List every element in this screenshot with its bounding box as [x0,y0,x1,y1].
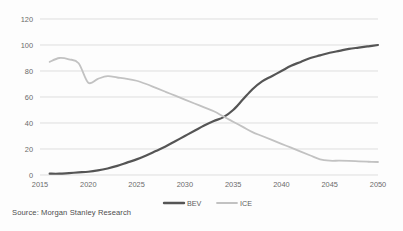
series-line-bev [50,45,378,174]
chart-legend: BEVICE [164,199,252,208]
x-axis-tick-labels: 20152020202520302035204020452050 [32,180,386,189]
y-axis-tick-label: 100 [21,41,33,50]
y-axis-tick-label: 60 [25,93,33,102]
chart-canvas: 020406080100120 201520202025203020352040… [0,0,403,231]
y-axis-tick-label: 80 [25,67,33,76]
x-axis-tick-label: 2025 [128,180,144,189]
x-axis-tick-label: 2030 [177,180,193,189]
y-axis-tick-label: 20 [25,145,33,154]
x-axis-tick-label: 2015 [32,180,48,189]
x-axis-tick-label: 2035 [225,180,241,189]
y-axis-tick-label: 40 [25,119,33,128]
y-axis-tick-labels: 020406080100120 [21,15,33,180]
legend-label-bev[interactable]: BEV [187,199,202,208]
gridlines [40,19,378,175]
data-series-group [50,45,378,174]
x-axis-tick-label: 2045 [321,180,337,189]
legend-label-ice[interactable]: ICE [240,199,252,208]
y-axis-tick-label: 120 [21,15,33,24]
x-axis-tick-label: 2050 [370,180,386,189]
x-axis-tick-label: 2040 [273,180,289,189]
series-line-ice [50,58,378,162]
line-chart-svg: 020406080100120 201520202025203020352040… [0,0,403,231]
x-axis-tick-label: 2020 [80,180,96,189]
y-axis-tick-label: 0 [29,171,33,180]
source-note: Source: Morgan Stanley Research [12,208,131,217]
chart-screenshot: 020406080100120 201520202025203020352040… [0,0,403,231]
